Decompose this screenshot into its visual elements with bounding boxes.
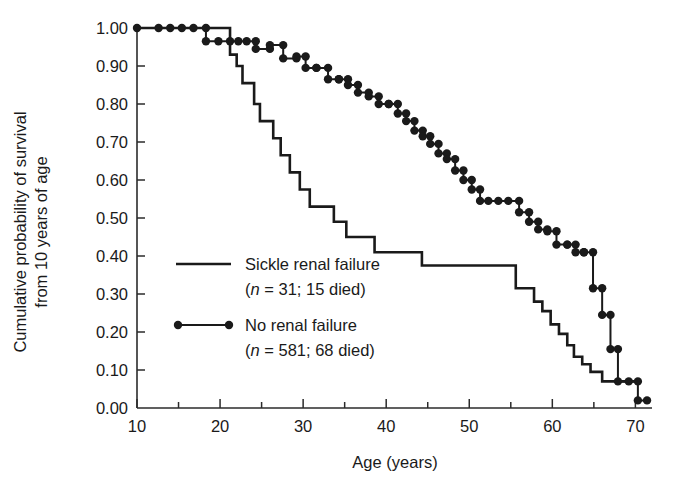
no-renal-failure-marker	[525, 208, 533, 216]
legend-detail-sickle-n: n	[251, 280, 260, 298]
no-renal-failure-marker	[534, 225, 542, 233]
no-renal-failure-marker	[589, 248, 597, 256]
x-tick-label: 50	[460, 417, 478, 435]
no-renal-failure-marker	[598, 311, 606, 319]
no-renal-failure-marker	[571, 248, 579, 256]
y-axis-title-line2: from 10 years of age	[32, 156, 50, 307]
no-renal-failure-marker	[410, 117, 418, 125]
no-renal-failure-marker	[571, 240, 579, 248]
no-renal-failure-marker	[324, 75, 332, 83]
no-renal-failure-marker	[214, 37, 222, 45]
no-renal-failure-marker	[344, 81, 352, 89]
no-renal-failure-marker	[515, 197, 523, 205]
no-renal-failure-marker	[494, 197, 502, 205]
no-renal-failure-marker	[634, 396, 642, 404]
no-renal-failure-marker	[484, 197, 492, 205]
no-renal-failure-marker	[504, 197, 512, 205]
y-axis-title-line1: Cumulative probability of survival	[11, 111, 29, 352]
no-renal-failure-marker	[384, 100, 392, 108]
x-tick-label: 10	[128, 417, 146, 435]
y-tick-label: 0.00	[96, 399, 128, 417]
legend-label-no-renal: No renal failure	[245, 316, 357, 334]
no-renal-failure-marker	[468, 185, 476, 193]
no-renal-failure-marker	[252, 37, 260, 45]
x-axis-title: Age (years)	[352, 453, 437, 471]
no-renal-failure-marker	[202, 37, 210, 45]
no-renal-failure-marker	[266, 41, 274, 49]
no-renal-failure-marker	[451, 155, 459, 163]
no-renal-failure-marker	[426, 132, 434, 140]
y-tick-label: 0.80	[96, 95, 128, 113]
no-renal-failure-marker	[476, 197, 484, 205]
y-tick-label: 0.10	[96, 361, 128, 379]
no-renal-failure-marker	[552, 227, 560, 235]
no-renal-failure-marker	[468, 176, 476, 184]
no-renal-failure-marker	[515, 208, 523, 216]
no-renal-failure-marker	[451, 166, 459, 174]
no-renal-failure-marker	[459, 166, 467, 174]
no-renal-failure-marker	[312, 64, 320, 72]
legend-detail-sickle-rest: = 31; 15 died)	[260, 280, 366, 298]
no-renal-failure-marker	[614, 345, 622, 353]
no-renal-failure-marker	[394, 109, 402, 117]
no-renal-failure-marker	[410, 126, 418, 134]
legend-detail-sickle: (n = 31; 15 died)	[245, 280, 366, 298]
no-renal-failure-marker	[365, 92, 373, 100]
no-renal-failure-marker	[335, 75, 343, 83]
legend-label-sickle: Sickle renal failure	[245, 255, 380, 273]
chart-svg: Cumulative probability of survival from …	[0, 0, 681, 484]
y-tick-label: 0.20	[96, 323, 128, 341]
no-renal-failure-marker	[279, 41, 287, 49]
no-renal-failure-marker	[301, 64, 309, 72]
no-renal-failure-marker	[580, 248, 588, 256]
no-renal-failure-marker	[402, 109, 410, 117]
no-renal-failure-marker	[525, 218, 533, 226]
no-renal-failure-marker	[252, 45, 260, 53]
no-renal-failure-marker	[234, 37, 242, 45]
legend-swatch-no-renal-dot-left	[174, 321, 182, 329]
no-renal-failure-marker	[552, 240, 560, 248]
no-renal-failure-marker	[598, 284, 606, 292]
x-tick-label: 70	[626, 417, 644, 435]
no-renal-failure-marker	[543, 227, 551, 235]
no-renal-failure-marker	[476, 185, 484, 193]
no-renal-failure-marker	[354, 81, 362, 89]
x-tick-label: 60	[543, 417, 561, 435]
y-tick-label: 0.50	[96, 209, 128, 227]
no-renal-failure-marker	[279, 54, 287, 62]
survival-chart-figure: Cumulative probability of survival from …	[0, 0, 681, 484]
no-renal-failure-marker	[459, 176, 467, 184]
x-tick-label: 40	[377, 417, 395, 435]
legend-swatch-no-renal-dot-right	[225, 321, 233, 329]
y-tick-label: 0.70	[96, 133, 128, 151]
y-tick-label: 0.40	[96, 247, 128, 265]
y-tick-label: 1.00	[96, 19, 128, 37]
x-tick-label: 30	[294, 417, 312, 435]
legend-detail-no-renal: (n = 581; 68 died)	[245, 341, 375, 359]
no-renal-failure-marker	[534, 218, 542, 226]
no-renal-failure-marker	[563, 240, 571, 248]
no-renal-failure-marker	[606, 345, 614, 353]
legend-detail-no-renal-rest: = 581; 68 died)	[260, 341, 375, 359]
no-renal-failure-marker	[606, 311, 614, 319]
no-renal-failure-marker	[434, 149, 442, 157]
no-renal-failure-marker	[375, 92, 383, 100]
no-renal-failure-marker	[419, 132, 427, 140]
y-tick-label: 0.30	[96, 285, 128, 303]
no-renal-failure-marker	[643, 396, 651, 404]
legend-detail-no-renal-n: n	[251, 341, 260, 359]
no-renal-failure-marker	[426, 140, 434, 148]
no-renal-failure-marker	[324, 64, 332, 72]
no-renal-failure-marker	[242, 37, 250, 45]
no-renal-failure-marker	[292, 52, 300, 60]
no-renal-failure-marker	[589, 284, 597, 292]
no-renal-failure-marker	[394, 100, 402, 108]
no-renal-failure-marker	[443, 155, 451, 163]
no-renal-failure-marker	[402, 117, 410, 125]
no-renal-failure-marker	[434, 140, 442, 148]
no-renal-failure-marker	[375, 100, 383, 108]
x-tick-label: 20	[211, 417, 229, 435]
no-renal-failure-marker	[354, 88, 362, 96]
y-tick-label: 0.90	[96, 57, 128, 75]
no-renal-failure-marker	[301, 52, 309, 60]
